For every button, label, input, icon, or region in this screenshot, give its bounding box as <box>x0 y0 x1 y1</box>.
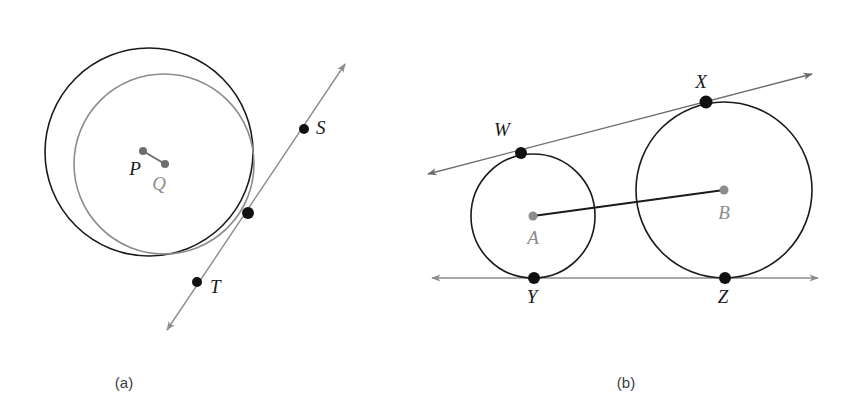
figure-canvas: P Q S T (a) W X Y Z A B (b) <box>0 0 851 412</box>
point-tangency-a <box>242 207 254 219</box>
label-p: P <box>128 158 141 179</box>
label-s: S <box>316 117 326 138</box>
point-x <box>700 96 713 109</box>
point-z <box>719 272 731 284</box>
point-w <box>515 147 527 159</box>
center-dot-q <box>161 160 169 168</box>
point-s <box>299 124 309 134</box>
center-dot-b <box>720 186 729 195</box>
panel-a: P Q S T (a) <box>45 48 345 391</box>
label-b: B <box>718 202 730 223</box>
label-w: W <box>494 119 512 140</box>
geometry-figure: P Q S T (a) W X Y Z A B (b) <box>0 0 851 412</box>
center-dot-a <box>529 212 538 221</box>
center-dot-p <box>139 147 147 155</box>
circle-p <box>45 48 253 256</box>
caption-a: (a) <box>115 374 133 391</box>
tangent-line-upper-wx <box>428 74 812 174</box>
label-x: X <box>694 71 708 92</box>
tangent-line-st <box>167 64 345 330</box>
label-y: Y <box>527 286 540 307</box>
segment-ab <box>533 190 724 216</box>
point-t <box>192 277 202 287</box>
label-z: Z <box>718 286 729 307</box>
caption-b: (b) <box>617 374 635 391</box>
label-q: Q <box>152 173 166 194</box>
point-y <box>528 272 540 284</box>
panel-b: W X Y Z A B (b) <box>428 71 818 391</box>
label-t: T <box>210 276 222 297</box>
label-a: A <box>525 227 539 248</box>
